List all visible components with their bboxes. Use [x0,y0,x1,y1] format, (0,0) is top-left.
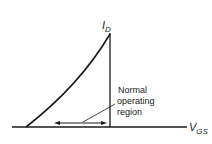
transfer-curve [26,34,110,127]
x-axis-label: VGS [189,121,209,136]
arrowhead-right-icon [101,121,107,125]
arrowhead-left-icon [54,121,60,125]
y-axis-label: ID [102,19,111,34]
annotation-line-1: Normal [118,85,147,95]
annotation-line-3: region [117,107,142,117]
transfer-characteristic-diagram: ID VGS Normal operating region [0,0,212,144]
annotation-line-2: operating [117,96,155,106]
